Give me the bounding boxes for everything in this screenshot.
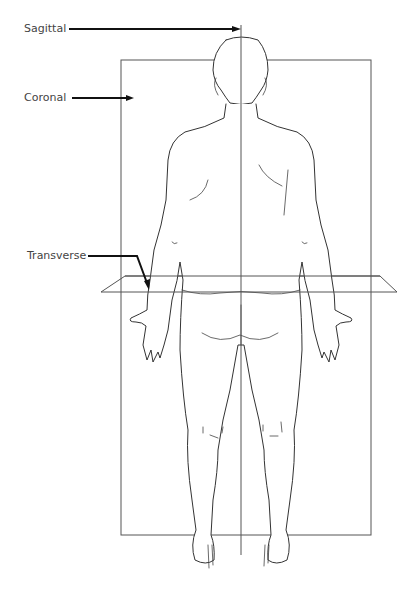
diagram-canvas (0, 0, 415, 595)
transverse-arrow (88, 256, 150, 290)
coronal-arrow (72, 95, 134, 101)
sagittal-label: Sagittal (24, 23, 66, 35)
anatomical-planes-diagram: Sagittal Coronal Transverse (0, 0, 415, 595)
sagittal-arrow (69, 26, 241, 32)
coronal-label: Coronal (24, 92, 66, 104)
transverse-label: Transverse (27, 250, 86, 262)
